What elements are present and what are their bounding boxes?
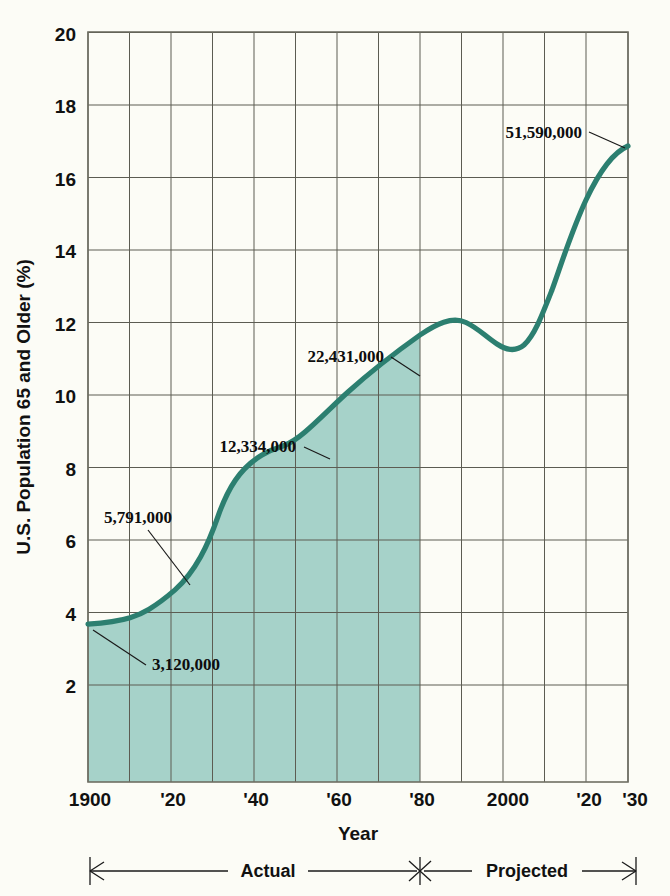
y-tick-14: 14 — [55, 241, 77, 262]
x-axis-title: Year — [338, 823, 379, 844]
bracket-label-projected: Projected — [486, 861, 568, 881]
y-tick-2: 2 — [65, 676, 76, 697]
y-tick-4: 4 — [65, 604, 76, 625]
y-tick-16: 16 — [55, 169, 76, 190]
chart-figure: 20 18 16 14 12 10 8 6 4 2 U.S. Populatio… — [0, 0, 670, 896]
x-tick-1960: '60 — [326, 789, 352, 810]
annotation-label-3120000: 3,120,000 — [152, 655, 220, 674]
y-tick-8: 8 — [65, 459, 76, 480]
x-tick-2000: 2000 — [487, 789, 529, 810]
annotation-label-22431000: 22,431,000 — [308, 347, 385, 366]
x-tick-1980: '80 — [409, 789, 435, 810]
annotation-label-51590000: 51,590,000 — [506, 123, 583, 142]
y-tick-20: 20 — [55, 24, 76, 45]
x-tick-2030: '30 — [622, 789, 648, 810]
annotation-label-12334000: 12,334,000 — [220, 437, 297, 456]
x-tick-1940: '40 — [243, 789, 269, 810]
bracket-label-actual: Actual — [240, 861, 295, 881]
y-tick-10: 10 — [55, 386, 76, 407]
x-tick-1900: 1900 — [69, 789, 111, 810]
x-tick-1920: '20 — [160, 789, 186, 810]
x-tick-2020: '20 — [576, 789, 602, 810]
y-tick-12: 12 — [55, 314, 76, 335]
y-tick-18: 18 — [55, 96, 76, 117]
y-tick-6: 6 — [65, 531, 76, 552]
population-area-chart: 20 18 16 14 12 10 8 6 4 2 U.S. Populatio… — [0, 0, 670, 896]
y-axis-title: U.S. Population 65 and Older (%) — [13, 259, 34, 555]
annotation-label-5791000: 5,791,000 — [104, 508, 172, 527]
